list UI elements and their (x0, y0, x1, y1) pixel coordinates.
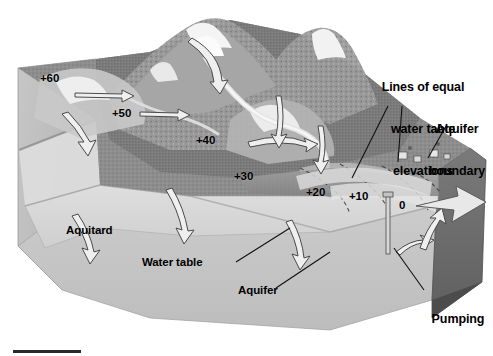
elevation-label-plus30: +30 (234, 170, 253, 183)
label-aquitard: Aquitard (66, 224, 112, 237)
block-diagram-figure: +60 +50 +40 +30 +20 +10 0 Lines of equal… (0, 0, 493, 356)
elevation-label-plus50: +50 (112, 107, 131, 120)
callout-line-2: boundary (420, 164, 493, 178)
callout-line-1: Lines of equal (358, 80, 488, 94)
label-water-table: Water table (142, 256, 202, 269)
elevation-label-plus20: +20 (306, 186, 325, 199)
elevation-label-plus40: +40 (196, 134, 215, 147)
callout-line-1: Pumping (424, 312, 492, 326)
scale-bar (13, 350, 81, 353)
callout-line-1: Aquifer (420, 122, 493, 136)
elevation-label-plus60: +60 (40, 72, 59, 85)
callout-aquifer-boundary: Aquifer boundary (420, 94, 493, 206)
label-aquifer: Aquifer (238, 284, 278, 297)
callout-pumping-well: Pumping well (424, 284, 492, 356)
